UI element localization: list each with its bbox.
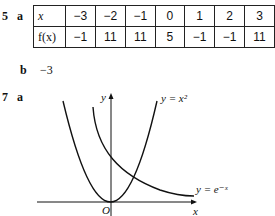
x-axis-arrow-icon [191,200,197,205]
x-axis-label: x [193,205,198,216]
function-graph [0,0,275,216]
y-axis-label: y [101,91,106,103]
origin-label: O [102,204,110,216]
curve-label-x-squared: y = x² [161,92,187,104]
y-axis-arrow-icon [109,93,114,99]
curve-label-exp: y = e⁻ˣ [196,183,228,196]
curve-x-squared [63,101,157,202]
